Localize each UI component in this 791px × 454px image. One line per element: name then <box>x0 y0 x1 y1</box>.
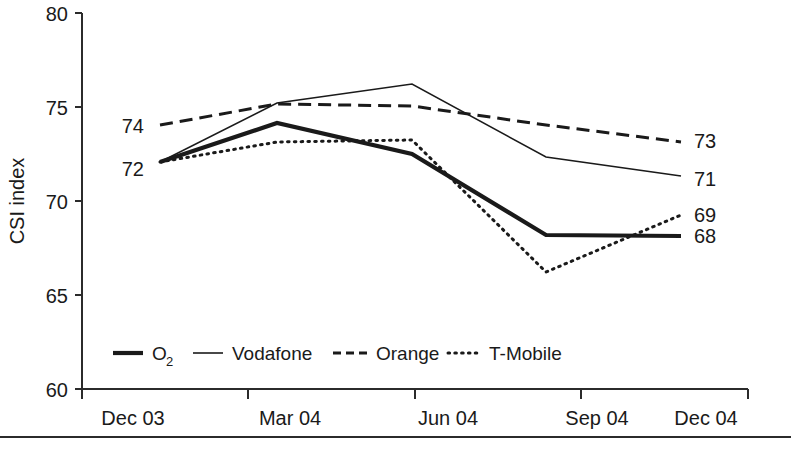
legend-label-o2: O <box>152 343 167 364</box>
y-axis-ticks <box>75 13 82 389</box>
x-tick-label-mar-04: Mar 04 <box>259 407 321 429</box>
left-label-orange: 74 <box>122 115 144 137</box>
chart-canvas: 80 75 70 65 60 CSI index Dec 03 Mar 04 J… <box>0 0 791 454</box>
legend-label-o2-subscript: 2 <box>166 354 173 369</box>
right-label-orange: 73 <box>694 130 716 152</box>
y-tick-label-65: 65 <box>46 285 68 307</box>
chart-legend: O 2 Vodafone Orange T-Mobile <box>113 343 562 369</box>
y-tick-label-60: 60 <box>46 379 68 401</box>
y-tick-label-75: 75 <box>46 97 68 119</box>
y-axis-title: CSI index <box>6 158 28 245</box>
series-line-o2 <box>160 123 681 236</box>
x-tick-label-sep-04: Sep 04 <box>565 407 628 429</box>
legend-label-tmobile: T-Mobile <box>489 343 562 364</box>
right-label-tmobile: 69 <box>694 204 716 226</box>
right-label-vodafone: 71 <box>694 168 716 190</box>
x-tick-label-jun-04: Jun 04 <box>418 407 478 429</box>
x-tick-label-dec-03: Dec 03 <box>101 407 164 429</box>
series-line-vodafone <box>160 84 681 176</box>
x-axis-ticks <box>82 389 748 399</box>
csi-index-line-chart: 80 75 70 65 60 CSI index Dec 03 Mar 04 J… <box>0 0 791 454</box>
y-tick-label-70: 70 <box>46 191 68 213</box>
right-label-o2: 68 <box>694 225 716 247</box>
left-label-cluster: 72 <box>122 158 144 180</box>
x-tick-label-dec-04: Dec 04 <box>674 407 737 429</box>
legend-label-orange: Orange <box>376 343 439 364</box>
legend-label-vodafone: Vodafone <box>232 343 312 364</box>
y-tick-label-80: 80 <box>46 3 68 25</box>
